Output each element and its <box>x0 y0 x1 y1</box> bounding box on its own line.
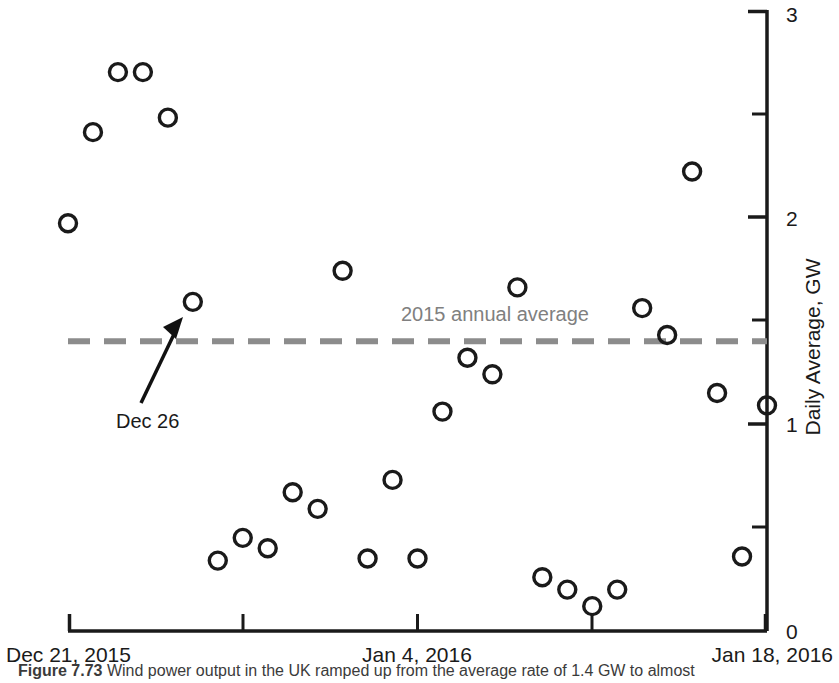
scatter-point <box>60 215 77 232</box>
y-tick-label-0: 0 <box>786 620 798 643</box>
scatter-point <box>209 552 226 569</box>
scatter-point <box>259 540 276 557</box>
scatter-point <box>709 384 726 401</box>
scatter-point <box>634 300 651 317</box>
scatter-point <box>409 550 426 567</box>
scatter-point <box>84 124 101 141</box>
scatter-point <box>159 109 176 126</box>
dec26-callout-arrow <box>141 317 183 403</box>
chart-canvas: 2015 annual average Dec 26 3 2 1 0 Daily… <box>0 0 839 683</box>
scatter-point <box>484 366 501 383</box>
scatter-point <box>534 569 551 586</box>
scatter-point <box>434 403 451 420</box>
figure-number: Figure 7.73 <box>18 662 102 679</box>
y-tick-label-1: 1 <box>786 413 798 436</box>
scatter-point <box>509 279 526 296</box>
scatter-point <box>609 581 626 598</box>
scatter-point-group <box>60 64 776 615</box>
scatter-point <box>459 349 476 366</box>
scatter-point <box>559 581 576 598</box>
y-axis-ticks <box>748 12 767 528</box>
scatter-point <box>734 548 751 565</box>
y-axis-title: Daily Average, GW <box>801 258 824 435</box>
scatter-point <box>359 550 376 567</box>
figure-caption-text: Wind power output in the UK ramped up fr… <box>107 662 695 679</box>
figure-caption: Figure 7.73 Wind power output in the UK … <box>18 662 838 680</box>
scatter-point <box>234 529 251 546</box>
scatter-point <box>184 293 201 310</box>
callout-arrow-head <box>163 317 183 339</box>
y-tick-label-2: 2 <box>786 207 798 230</box>
scatter-point <box>584 598 601 615</box>
scatter-point <box>109 64 126 81</box>
scatter-chart-figure: 2015 annual average Dec 26 3 2 1 0 Daily… <box>0 0 839 683</box>
dec26-callout-label: Dec 26 <box>116 410 179 432</box>
scatter-point <box>659 326 676 343</box>
y-tick-label-3: 3 <box>786 3 798 26</box>
scatter-point <box>334 262 351 279</box>
annual-average-label: 2015 annual average <box>401 303 589 325</box>
scatter-point <box>384 471 401 488</box>
scatter-point <box>134 64 151 81</box>
x-axis-ticks <box>70 614 766 631</box>
scatter-point <box>684 163 701 180</box>
scatter-point <box>309 500 326 517</box>
scatter-point <box>284 484 301 501</box>
